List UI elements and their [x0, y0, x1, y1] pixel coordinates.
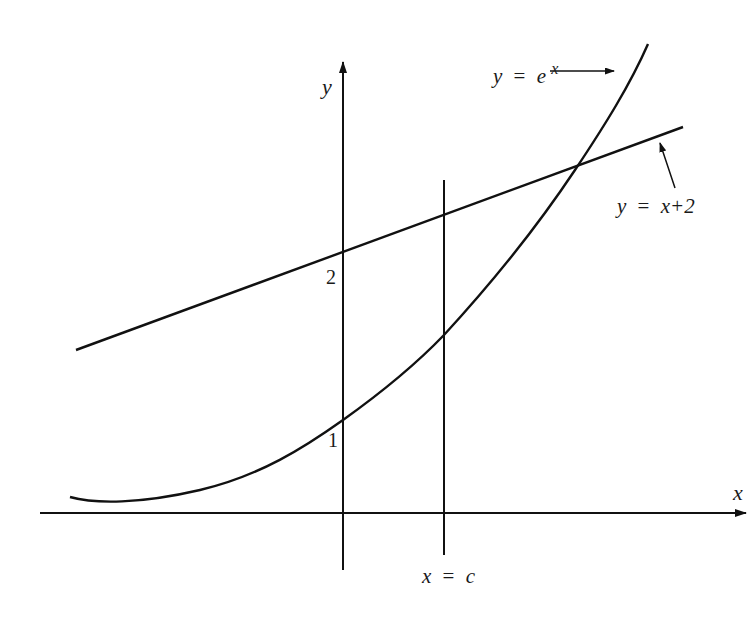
- line-y-equals-x-plus-2: [76, 127, 683, 350]
- y-axis-label: y: [320, 74, 332, 99]
- curve-y-equals-e-to-x: [70, 44, 648, 502]
- function-graph-diagram: y x 2 1 y = e x y = x+2 x = c: [0, 0, 755, 618]
- label-exp-curve: y = e x: [491, 60, 558, 88]
- y-tick-1: 1: [328, 429, 338, 451]
- x-axis-label: x: [732, 480, 743, 505]
- pointer-arrow-line: [660, 143, 675, 188]
- y-tick-2: 2: [326, 266, 336, 288]
- label-vertical-line: x = c: [421, 564, 476, 588]
- label-line: y = x+2: [615, 194, 695, 218]
